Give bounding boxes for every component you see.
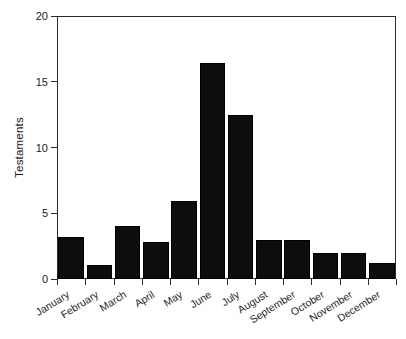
- y-axis-title: Testaments: [10, 16, 28, 279]
- x-tick-mark: [396, 279, 397, 285]
- bar-november: [341, 253, 366, 279]
- x-tick-mark: [170, 279, 171, 285]
- bar-june: [200, 63, 225, 279]
- x-tick-mark: [114, 279, 115, 285]
- y-tick-label: 20: [36, 8, 48, 24]
- x-tick-mark: [368, 279, 369, 285]
- x-tick-mark: [283, 279, 284, 285]
- plot-area: [57, 16, 396, 279]
- y-tick-label: 15: [36, 74, 48, 90]
- x-tick-mark: [198, 279, 199, 285]
- x-tick-mark: [340, 279, 341, 285]
- bar-january: [58, 237, 83, 279]
- y-tick-label: 10: [36, 140, 48, 156]
- bar-april: [143, 242, 168, 279]
- bar-july: [228, 115, 253, 279]
- bar-may: [171, 201, 196, 279]
- y-tick-label: 0: [42, 271, 48, 287]
- bar-december: [369, 263, 394, 279]
- x-tick-mark: [311, 279, 312, 285]
- bar-march: [115, 226, 140, 279]
- bar-september: [284, 240, 309, 279]
- x-tick-mark: [85, 279, 86, 285]
- bar-august: [256, 240, 281, 279]
- x-tick-mark: [255, 279, 256, 285]
- x-tick-mark-origin: [57, 279, 58, 285]
- bar-february: [87, 265, 112, 279]
- y-tick-label: 5: [42, 205, 48, 221]
- bar-october: [313, 253, 338, 279]
- bar-chart: Testaments 0 5 10 15 20 JanuaryFebruaryM…: [0, 0, 406, 339]
- x-tick-mark: [227, 279, 228, 285]
- x-tick-mark: [142, 279, 143, 285]
